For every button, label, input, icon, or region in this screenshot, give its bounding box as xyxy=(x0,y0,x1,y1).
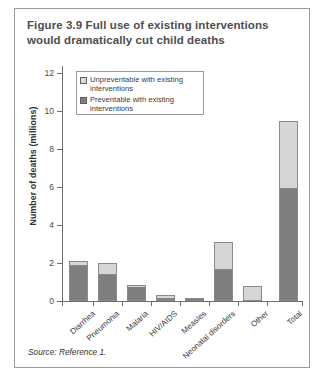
bar-neonatal-disorders-unpreventable xyxy=(215,243,232,269)
x-tick-mark-3 xyxy=(151,301,152,306)
bar-malaria xyxy=(127,285,146,301)
bar-other xyxy=(243,286,262,301)
x-tick-mark-8 xyxy=(302,301,303,306)
bar-pneumonia xyxy=(98,263,117,301)
bar-neonatal-disorders xyxy=(214,242,233,301)
x-tick-mark-6 xyxy=(238,301,239,306)
bar-hiv-aids xyxy=(156,295,175,301)
bar-pneumonia-unpreventable xyxy=(99,264,116,274)
bar-measles xyxy=(185,298,204,301)
bar-hiv-aids-divider xyxy=(157,298,174,299)
bar-diarrhea-preventable xyxy=(70,265,87,300)
bar-measles-preventable xyxy=(186,299,203,300)
x-tick-mark-0 xyxy=(62,301,63,306)
bar-total-preventable xyxy=(280,188,297,300)
source-note: Source: Reference 1. xyxy=(28,347,106,357)
bar-pneumonia-preventable xyxy=(99,274,116,300)
x-tick-mark-7 xyxy=(267,301,268,306)
x-tick-mark-5 xyxy=(209,301,210,306)
x-tick-mark-2 xyxy=(122,301,123,306)
bar-diarrhea xyxy=(69,261,88,301)
bar-diarrhea-divider xyxy=(70,265,87,266)
x-tick-mark-1 xyxy=(93,301,94,306)
bar-other-unpreventable xyxy=(244,287,261,300)
bar-malaria-preventable xyxy=(128,287,145,300)
x-tick-mark-4 xyxy=(180,301,181,306)
bar-total xyxy=(279,121,298,301)
bar-neonatal-disorders-preventable xyxy=(215,269,232,300)
bar-total-divider xyxy=(280,188,297,189)
plot-area: Number of deaths (millions) 0 2 4 6 8 10… xyxy=(15,9,311,369)
bar-neonatal-disorders-divider xyxy=(215,269,232,270)
figure-container: Figure 3.9 Full use of existing interven… xyxy=(14,8,310,368)
bar-pneumonia-divider xyxy=(99,274,116,275)
bar-total-unpreventable xyxy=(280,122,297,188)
